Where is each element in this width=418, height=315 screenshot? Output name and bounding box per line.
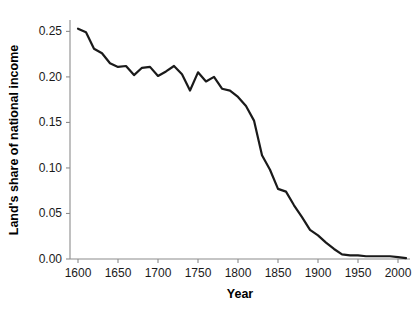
x-tick-label: 1800: [225, 266, 252, 280]
y-tick-label: 0.15: [39, 115, 63, 129]
y-tick-label: 0.25: [39, 24, 63, 38]
x-tick-label: 1650: [105, 266, 132, 280]
x-tick-label: 1750: [185, 266, 212, 280]
x-tick-label: 1900: [305, 266, 332, 280]
line-chart: 0.000.050.100.150.200.25 160016501700175…: [0, 0, 418, 315]
y-axis-ticks: 0.000.050.100.150.200.25: [39, 24, 70, 266]
x-tick-label: 1700: [145, 266, 172, 280]
data-series-line: [78, 29, 406, 258]
x-tick-label: 1600: [65, 266, 92, 280]
y-tick-label: 0.10: [39, 161, 63, 175]
x-axis-ticks: 160016501700175018001850190019502000: [65, 259, 412, 280]
x-tick-label: 2000: [385, 266, 412, 280]
y-tick-label: 0.20: [39, 70, 63, 84]
x-axis-label: Year: [227, 287, 254, 301]
x-tick-label: 1950: [345, 266, 372, 280]
x-tick-label: 1850: [265, 266, 292, 280]
y-tick-label: 0.05: [39, 206, 63, 220]
y-tick-label: 0.00: [39, 252, 63, 266]
chart-figure: 0.000.050.100.150.200.25 160016501700175…: [0, 0, 418, 315]
y-axis-label: Land's share of national income: [7, 45, 21, 236]
